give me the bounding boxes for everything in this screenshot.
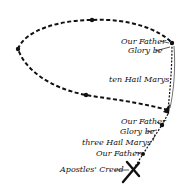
label-glory-be-pendant: Glory be xyxy=(120,128,155,136)
label-glory-be-loop: Glory be xyxy=(128,47,163,55)
loop-top-bead-icon xyxy=(90,18,94,22)
our-father-bead-icon xyxy=(170,41,174,45)
label-ten-hail-marys: ten Hail Marys xyxy=(109,76,169,84)
label-our-father-pendant-bottom: Our Father xyxy=(96,150,141,158)
rosary-diagram xyxy=(0,0,188,191)
loop-left-bead-icon xyxy=(16,47,20,51)
rosary-loop xyxy=(18,20,172,110)
cross-icon xyxy=(123,162,139,182)
label-our-father-loop: Our Father xyxy=(121,38,166,46)
our-father-bead-icon xyxy=(141,152,145,156)
label-our-father-pendant-top: Our Father xyxy=(121,118,166,126)
loop-bottom-bead-icon xyxy=(84,93,88,97)
label-apostles-creed: Apostles' Creed xyxy=(60,166,124,174)
label-three-hail-marys: three Hail Marys xyxy=(82,139,151,147)
